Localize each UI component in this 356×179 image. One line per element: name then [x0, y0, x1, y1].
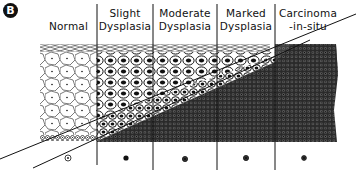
nucleus-symbols [65, 155, 306, 162]
basal-cell-row [40, 135, 97, 141]
epithelium-diagram [0, 0, 356, 179]
superficial-layer [40, 44, 270, 52]
